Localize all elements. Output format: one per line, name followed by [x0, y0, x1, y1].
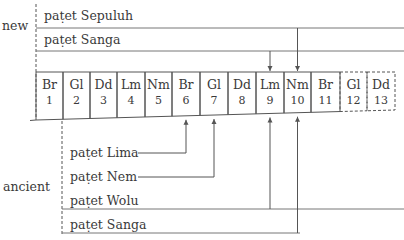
cell: Br11: [311, 72, 340, 112]
arrowhead-icon: [212, 119, 217, 124]
arrowhead-icon: [268, 66, 273, 71]
cell-tone-name: Nm: [147, 77, 170, 92]
new-pathet-sepuluh: paṭet Sepuluh: [44, 8, 133, 23]
cell-bottom-edge: [30, 120, 36, 121]
cell-tone-name: Br: [318, 77, 333, 92]
cell: Gl12: [340, 72, 367, 112]
cell: Lm9: [256, 72, 284, 114]
cell-tone-number: 2: [73, 94, 80, 107]
cell: Nm5: [145, 72, 172, 117]
cell-tone-name: Nm: [286, 77, 309, 92]
cell-tone-number: 12: [347, 94, 361, 107]
cell-tone-number: 13: [374, 94, 388, 107]
ancient-pathet-lima: paṭet Lima: [70, 145, 139, 160]
cell-tone-number: 4: [128, 94, 135, 107]
cell: Dd13: [367, 72, 395, 111]
cell-tone-name: Gl: [70, 77, 84, 92]
cell-tone-number: 7: [211, 94, 218, 107]
cell-tone-name: Gl: [347, 77, 361, 92]
cell: Gl2: [63, 72, 90, 119]
cell-tone-name: Gl: [207, 77, 221, 92]
cell: Br6: [172, 72, 200, 116]
cell-tone-name: Dd: [94, 77, 112, 92]
arrowhead-icon: [184, 120, 189, 125]
cell-tone-name: Dd: [372, 77, 390, 92]
cell-tone-number: 10: [291, 94, 305, 107]
cell: Nm10: [284, 72, 311, 113]
cell-tone-number: 8: [239, 94, 246, 107]
cell-tone-name: Br: [178, 77, 193, 92]
cell-tone-number: 11: [319, 94, 333, 107]
cell-tone-number: 9: [267, 94, 274, 107]
ancient-label: ancient: [3, 179, 50, 194]
arrowhead-icon: [295, 117, 300, 122]
cell: Dd3: [90, 72, 117, 118]
pathet-diagram: new ancient paṭet Sepuluh paṭet Sanga Br…: [0, 0, 404, 240]
arrowhead-icon: [268, 117, 273, 122]
ancient-pathet-sanga: paṭet Sanga: [70, 217, 147, 232]
cell: Dd8: [228, 72, 256, 115]
cell-tone-name: Lm: [260, 77, 280, 92]
cell-tone-number: 3: [100, 94, 107, 107]
ancient-pathet-wolu: paṭet Wolu: [70, 193, 138, 208]
cell-tone-name: Dd: [233, 77, 251, 92]
ancient-pathet-nem: paṭet Nem: [70, 169, 137, 184]
cell-tone-name: Br: [42, 77, 57, 92]
cell-tone-number: 5: [155, 94, 162, 107]
new-pathet-sanga: paṭet Sanga: [44, 32, 121, 47]
cell-tone-name: Lm: [121, 77, 141, 92]
cell-tone-number: 6: [183, 94, 190, 107]
arrowhead-icon: [295, 66, 300, 71]
cell: Br1: [36, 72, 63, 120]
cell-tone-number: 1: [46, 94, 53, 107]
new-label: new: [2, 18, 28, 33]
cell: Lm4: [117, 72, 145, 118]
cell: Gl7: [200, 72, 228, 115]
